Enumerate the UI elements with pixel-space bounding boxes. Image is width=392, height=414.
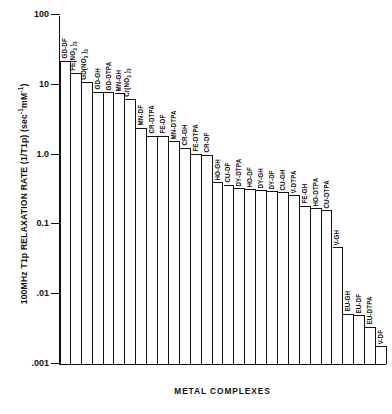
y-axis-title-lead: 100MHz T1p RELAXATION RATE (1/T1p) (sec bbox=[19, 114, 29, 304]
bar: MN-DTPA bbox=[169, 141, 180, 364]
bar-label: FE(NO3 )3 bbox=[70, 41, 80, 70]
bar-label: GD-DTPA bbox=[106, 61, 113, 90]
bar-label: EU-DF bbox=[357, 293, 364, 313]
bar: V-DTPA bbox=[289, 195, 300, 364]
bar: CR-GH bbox=[180, 148, 191, 364]
y-axis-tick: 0.1 bbox=[51, 223, 60, 224]
relaxation-rate-bar-chart: 100MHz T1p RELAXATION RATE (1/T1p) (sec-… bbox=[0, 0, 392, 414]
bar-label: CU-DF bbox=[226, 163, 233, 183]
y-axis-tick: .001 bbox=[51, 363, 60, 364]
plot-area: 100101.00.1.01.001 GD-DFFE(NO3 )3GD(NO3 … bbox=[59, 16, 386, 365]
bar-label: GD-GH bbox=[95, 68, 102, 90]
bar: CU-DF bbox=[224, 185, 235, 364]
bar-label: CU-DTPA bbox=[324, 180, 331, 209]
bar: FE(NO3 )3 bbox=[71, 73, 82, 364]
bar: CU-GH bbox=[278, 192, 289, 364]
bar: EU-DTPA bbox=[365, 327, 376, 364]
bar-label: MN-DF bbox=[139, 105, 146, 126]
bar-label: Cr(NO3 )3 bbox=[124, 69, 134, 97]
bar: GD-DF bbox=[60, 61, 71, 364]
bar: GD(NO3 )3 bbox=[82, 82, 93, 364]
y-axis-tick: .01 bbox=[51, 293, 60, 294]
bar: V-GH bbox=[333, 247, 344, 364]
bar: CR-DF bbox=[202, 155, 213, 364]
y-axis-title-tail: ) bbox=[19, 84, 29, 87]
bar-label: FE-DTPA bbox=[193, 124, 200, 152]
bar-label: CR-GH bbox=[182, 125, 189, 146]
bar-label: FE-DF bbox=[160, 115, 167, 134]
bar: CR-DTPA bbox=[147, 136, 158, 364]
bar-label: EU-GH bbox=[346, 291, 353, 312]
y-axis-tick-label: 100 bbox=[34, 9, 49, 19]
bar: GD-GH bbox=[93, 92, 104, 364]
bar-label: V-GH bbox=[335, 230, 342, 246]
bar-label: V-DF bbox=[378, 329, 385, 344]
bar: EU-GH bbox=[343, 314, 354, 364]
bar-label: GD(NO3 )3 bbox=[81, 49, 91, 80]
bar-label: HO-GH bbox=[215, 159, 222, 181]
bar-label: HO-DF bbox=[248, 167, 255, 187]
y-axis-tick-label: .01 bbox=[36, 288, 49, 298]
bar-label: CR-DTPA bbox=[150, 105, 157, 134]
y-axis-tick: 1.0 bbox=[51, 154, 60, 155]
y-axis-tick-label: 1.0 bbox=[36, 149, 49, 159]
bar-label: MN-DTPA bbox=[171, 110, 178, 139]
bar: HO-DTPA bbox=[311, 208, 322, 364]
bar: Cr(NO3 )3 bbox=[125, 99, 136, 364]
y-axis-title-sup1: -1 bbox=[17, 108, 24, 114]
y-axis-title: 100MHz T1p RELAXATION RATE (1/T1p) (sec-… bbox=[17, 34, 29, 354]
bar-label: DY-GH bbox=[259, 168, 266, 188]
y-axis-title-sup2: -1 bbox=[17, 87, 24, 93]
bar: DY-GH bbox=[256, 190, 267, 364]
bar: HO-GH bbox=[213, 182, 224, 364]
y-axis-tick-label: 10 bbox=[39, 79, 49, 89]
bar-label: CU-GH bbox=[280, 169, 287, 190]
bar: MN-DF bbox=[136, 128, 147, 364]
bar: EU-DF bbox=[354, 315, 365, 364]
bar: DY-DTPA bbox=[234, 188, 245, 364]
bar: FE-DTPA bbox=[191, 154, 202, 364]
y-axis-tick-label: 0.1 bbox=[36, 218, 49, 228]
bar-label: DY-DTPA bbox=[237, 158, 244, 186]
bar: MN-GH bbox=[115, 93, 126, 364]
bar: FE-GH bbox=[300, 206, 311, 364]
x-axis-title: METAL COMPLEXES bbox=[59, 386, 386, 396]
y-axis-tick: 100 bbox=[51, 14, 60, 15]
bar-label: CR-DF bbox=[204, 133, 211, 153]
bar: CU-DTPA bbox=[322, 210, 333, 364]
bar: V-DF bbox=[376, 346, 387, 364]
bar: FE-DF bbox=[158, 136, 169, 364]
bar-label: HO-DTPA bbox=[313, 177, 320, 206]
bar-label: DY-DF bbox=[269, 170, 276, 189]
bar: HO-DF bbox=[245, 189, 256, 364]
y-axis-tick: 10 bbox=[51, 84, 60, 85]
bar: GD-DTPA bbox=[104, 92, 115, 364]
bar-label: FE-GH bbox=[302, 184, 309, 204]
bar-label: V-DTPA bbox=[291, 170, 298, 193]
y-axis-tick-label: .001 bbox=[31, 358, 49, 368]
bar-label: EU-DTPA bbox=[368, 297, 375, 325]
y-axis-title-mid: mM bbox=[19, 93, 29, 108]
bar: DY-DF bbox=[267, 191, 278, 364]
